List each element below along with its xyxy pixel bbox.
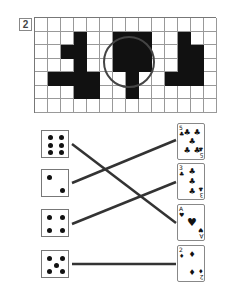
- grid-cell[interactable]: [113, 72, 126, 86]
- grid-cell[interactable]: [178, 86, 191, 100]
- grid-cell-filled[interactable]: [126, 59, 139, 73]
- grid-cell[interactable]: [139, 86, 152, 100]
- grid-cell[interactable]: [165, 18, 178, 32]
- grid-cell-filled[interactable]: [74, 72, 87, 86]
- grid-cell[interactable]: [61, 18, 74, 32]
- grid-cell-filled[interactable]: [74, 86, 87, 100]
- grid-cell[interactable]: [113, 99, 126, 113]
- grid-cell[interactable]: [100, 59, 113, 73]
- grid-cell[interactable]: [204, 32, 217, 46]
- grid-cell[interactable]: [100, 45, 113, 59]
- grid-cell[interactable]: [139, 72, 152, 86]
- grid-cell[interactable]: [48, 45, 61, 59]
- grid-cell[interactable]: [191, 32, 204, 46]
- grid-cell[interactable]: [74, 18, 87, 32]
- grid-cell-filled[interactable]: [126, 32, 139, 46]
- grid-cell[interactable]: [152, 99, 165, 113]
- grid-cell[interactable]: [165, 99, 178, 113]
- grid-cell[interactable]: [100, 99, 113, 113]
- grid-cell-filled[interactable]: [61, 45, 74, 59]
- grid-cell-filled[interactable]: [191, 72, 204, 86]
- grid-cell[interactable]: [152, 32, 165, 46]
- grid-cell[interactable]: [35, 99, 48, 113]
- grid-cell[interactable]: [48, 99, 61, 113]
- grid-cell-filled[interactable]: [126, 86, 139, 100]
- die-5[interactable]: [41, 250, 69, 278]
- playing-card-3-clubs[interactable]: 3♣3♣♣♣♣: [177, 163, 205, 200]
- grid-cell-filled[interactable]: [191, 45, 204, 59]
- grid-cell[interactable]: [61, 32, 74, 46]
- grid-cell-filled[interactable]: [74, 45, 87, 59]
- playing-card-5-clubs[interactable]: 5♣5♣♣♣♣♣♣: [177, 123, 205, 160]
- grid-cell[interactable]: [87, 59, 100, 73]
- grid-cell[interactable]: [165, 59, 178, 73]
- grid-cell[interactable]: [35, 32, 48, 46]
- playing-card-2-diamonds[interactable]: 2♦2♦♦♦: [177, 245, 205, 282]
- grid-cell[interactable]: [100, 18, 113, 32]
- grid-cell-filled[interactable]: [165, 72, 178, 86]
- grid-cell[interactable]: [61, 99, 74, 113]
- grid-cell-filled[interactable]: [87, 72, 100, 86]
- grid-cell[interactable]: [48, 59, 61, 73]
- grid-cell-filled[interactable]: [74, 59, 87, 73]
- grid-cell[interactable]: [87, 99, 100, 113]
- grid-cell[interactable]: [48, 18, 61, 32]
- grid-cell[interactable]: [204, 18, 217, 32]
- grid-cell[interactable]: [61, 59, 74, 73]
- grid-cell[interactable]: [100, 32, 113, 46]
- grid-cell[interactable]: [139, 18, 152, 32]
- grid-cell[interactable]: [165, 86, 178, 100]
- grid-cell[interactable]: [204, 45, 217, 59]
- grid-cell[interactable]: [204, 86, 217, 100]
- grid-cell[interactable]: [35, 86, 48, 100]
- grid-cell-filled[interactable]: [139, 45, 152, 59]
- grid-cell[interactable]: [35, 59, 48, 73]
- grid-cell[interactable]: [204, 99, 217, 113]
- grid-cell-filled[interactable]: [87, 86, 100, 100]
- grid-cell[interactable]: [87, 45, 100, 59]
- grid-cell[interactable]: [113, 18, 126, 32]
- grid-cell[interactable]: [126, 18, 139, 32]
- grid-cell[interactable]: [87, 32, 100, 46]
- grid-cell[interactable]: [61, 86, 74, 100]
- grid-cell-filled[interactable]: [113, 32, 126, 46]
- grid-cell[interactable]: [48, 86, 61, 100]
- grid-cell[interactable]: [191, 99, 204, 113]
- grid-cell[interactable]: [126, 99, 139, 113]
- grid-cell[interactable]: [48, 32, 61, 46]
- grid-cell[interactable]: [152, 86, 165, 100]
- grid-cell[interactable]: [35, 45, 48, 59]
- grid-cell-filled[interactable]: [61, 72, 74, 86]
- grid-cell[interactable]: [178, 18, 191, 32]
- grid-cell-filled[interactable]: [113, 59, 126, 73]
- grid-cell-filled[interactable]: [139, 59, 152, 73]
- grid-cell[interactable]: [113, 86, 126, 100]
- grid-cell-filled[interactable]: [74, 32, 87, 46]
- playing-card-A-hearts[interactable]: A♥A♥♥: [177, 204, 205, 241]
- grid-cell[interactable]: [100, 72, 113, 86]
- grid-cell-filled[interactable]: [126, 72, 139, 86]
- grid-cell-filled[interactable]: [178, 32, 191, 46]
- grid-cell[interactable]: [165, 45, 178, 59]
- grid-cell[interactable]: [74, 99, 87, 113]
- grid-cell-filled[interactable]: [113, 45, 126, 59]
- grid-cell-filled[interactable]: [191, 59, 204, 73]
- grid-cell-filled[interactable]: [126, 45, 139, 59]
- die-4[interactable]: [41, 209, 69, 237]
- grid-cell[interactable]: [35, 18, 48, 32]
- grid-cell-filled[interactable]: [178, 45, 191, 59]
- grid-cell-filled[interactable]: [48, 72, 61, 86]
- grid-cell[interactable]: [191, 18, 204, 32]
- die-6[interactable]: [41, 130, 69, 158]
- grid-cell[interactable]: [35, 72, 48, 86]
- grid-cell[interactable]: [100, 86, 113, 100]
- die-2[interactable]: [41, 169, 69, 197]
- grid-cell-filled[interactable]: [139, 32, 152, 46]
- grid-cell[interactable]: [152, 45, 165, 59]
- grid-cell[interactable]: [139, 99, 152, 113]
- grid-cell[interactable]: [165, 32, 178, 46]
- grid-cell[interactable]: [152, 18, 165, 32]
- grid-cell[interactable]: [191, 86, 204, 100]
- grid-cell[interactable]: [87, 18, 100, 32]
- grid-cell[interactable]: [152, 59, 165, 73]
